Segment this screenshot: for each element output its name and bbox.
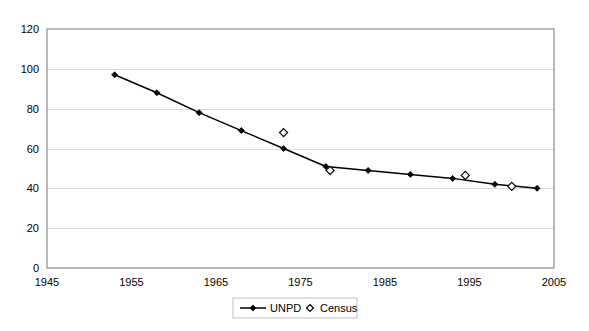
y-axis-tick-label: 80 [27, 103, 39, 115]
x-axis-tick-label: 1985 [373, 276, 397, 288]
legend-label-unpd: UNPD [270, 302, 301, 314]
data-point-unpd [534, 185, 540, 191]
data-point-unpd [450, 175, 456, 181]
y-axis-tick-label: 40 [27, 182, 39, 194]
y-axis-tick-labels: 020406080100120 [21, 23, 39, 274]
data-point-unpd [196, 110, 202, 116]
y-axis-tick-label: 60 [27, 143, 39, 155]
x-axis-tick-labels: 1945195519651975198519952005 [35, 276, 566, 288]
y-axis-tick-label: 20 [27, 222, 39, 234]
chart-legend: UNPDCensus [233, 298, 358, 318]
y-axis-tick-label: 100 [21, 63, 39, 75]
x-axis-tick-label: 1945 [35, 276, 59, 288]
data-point-census [280, 129, 288, 137]
x-axis-tick-label: 2005 [542, 276, 566, 288]
data-point-unpd [281, 146, 287, 152]
y-axis-tick-label: 0 [33, 262, 39, 274]
plot-area-border [47, 29, 554, 268]
x-axis-tick-label: 1975 [288, 276, 312, 288]
data-point-census [461, 171, 469, 179]
data-point-unpd [154, 90, 160, 96]
line-chart: 020406080100120 194519551965197519851995… [0, 0, 589, 331]
legend-label-census: Census [320, 302, 358, 314]
series-unpd [112, 72, 540, 192]
series-line-unpd [115, 75, 537, 189]
data-point-unpd [407, 171, 413, 177]
data-point-unpd [112, 72, 118, 78]
chart-container: 020406080100120 194519551965197519851995… [0, 0, 589, 331]
gridlines [47, 70, 554, 229]
x-axis-tick-label: 1955 [119, 276, 143, 288]
data-point-unpd [365, 167, 371, 173]
data-point-census [508, 182, 516, 190]
y-axis-tick-label: 120 [21, 23, 39, 35]
x-axis-tick-label: 1965 [204, 276, 228, 288]
data-point-unpd [238, 128, 244, 134]
data-point-unpd [492, 181, 498, 187]
data-series-layer [112, 72, 540, 192]
series-census [280, 129, 516, 191]
x-axis-tick-label: 1995 [457, 276, 481, 288]
